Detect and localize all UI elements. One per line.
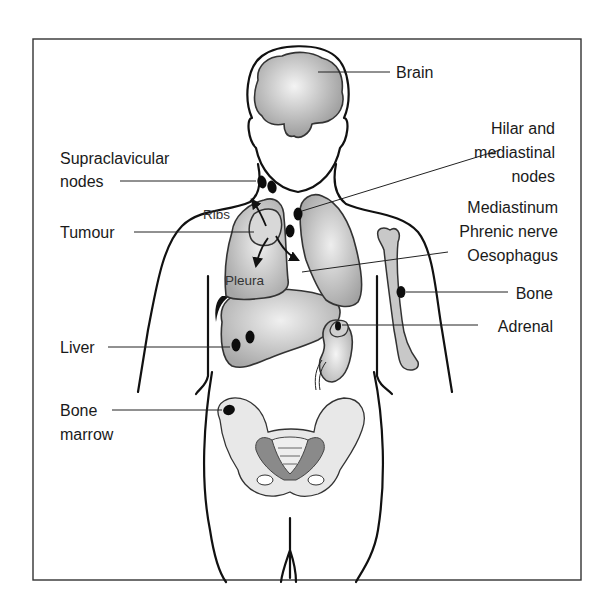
liver-metastasis-1 [232,339,241,352]
label-supraclavicular-1: Supraclavicular [60,150,170,167]
hilar-node-1 [294,208,303,221]
label-oesophagus: Oesophagus [467,247,558,264]
label-hilar-2: mediastinal [474,144,555,161]
label-adrenal: Adrenal [498,318,553,335]
lung-cancer-spread-diagram: Brain Hilar and mediastinal nodes Suprac… [0,0,610,599]
label-mediastinum: Mediastinum [467,199,558,216]
label-supraclavicular-2: nodes [60,173,104,190]
label-pleura: Pleura [225,273,265,288]
label-liver: Liver [60,339,95,356]
label-bone: Bone [516,285,553,302]
tumour [249,209,281,246]
label-bone-marrow-2: marrow [60,426,114,443]
adrenal-metastasis [335,322,341,331]
bone-metastasis [397,286,406,298]
liver-metastasis-2 [246,331,255,344]
label-hilar-1: Hilar and [491,120,555,137]
diagram-canvas: Brain Hilar and mediastinal nodes Suprac… [0,0,610,599]
label-ribs: Ribs [203,207,230,222]
label-bone-marrow-1: Bone [60,402,97,419]
label-brain: Brain [396,64,433,81]
label-hilar-3: nodes [511,168,555,185]
hilar-node-2 [286,225,295,238]
label-tumour: Tumour [60,224,115,241]
label-phrenic-nerve: Phrenic nerve [459,223,558,240]
